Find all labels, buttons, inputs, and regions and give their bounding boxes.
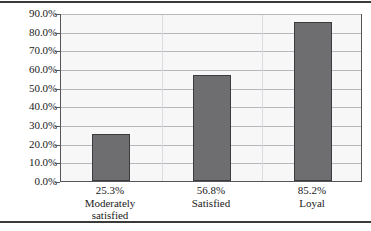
- top-divider-rule: [0, 1, 371, 3]
- y-axis-tick-label: 0.0%: [1, 176, 57, 187]
- y-axis-tick-label: 60.0%: [1, 64, 57, 75]
- bar[interactable]: [92, 134, 130, 181]
- y-axis-tick-mark: [55, 14, 60, 15]
- x-axis-value-label: 56.8%: [156, 184, 266, 197]
- y-axis-tick-mark: [55, 126, 60, 127]
- x-axis-category-label: 85.2%Loyal: [257, 184, 367, 209]
- x-axis-category-text: Satisfied: [156, 197, 266, 210]
- y-axis-tick-mark: [55, 33, 60, 34]
- bar[interactable]: [294, 22, 332, 181]
- bars-group: [61, 15, 361, 181]
- y-axis-tick-label: 20.0%: [1, 139, 57, 150]
- y-axis-tick-label: 10.0%: [1, 157, 57, 168]
- x-axis-value-label: 25.3%: [55, 184, 165, 197]
- plot-area: [60, 14, 362, 182]
- x-axis-category-text: satisfied: [55, 209, 165, 222]
- y-axis-tick-label: 80.0%: [1, 27, 57, 38]
- x-axis-category-text: Loyal: [257, 197, 367, 210]
- x-axis-category-text: Moderately: [55, 197, 165, 210]
- y-axis-tick-mark: [55, 107, 60, 108]
- y-axis-tick-mark: [55, 182, 60, 183]
- y-axis-tick-label: 50.0%: [1, 83, 57, 94]
- y-axis-tick-label: 90.0%: [1, 8, 57, 19]
- y-axis-tick-mark: [55, 70, 60, 71]
- y-axis-tick-label: 40.0%: [1, 101, 57, 112]
- x-axis-category-label: 56.8%Satisfied: [156, 184, 266, 209]
- y-axis-tick-label: 30.0%: [1, 120, 57, 131]
- bar-chart-figure: 0.0%10.0%20.0%30.0%40.0%50.0%60.0%70.0%8…: [0, 4, 371, 220]
- y-axis-tick-mark: [55, 89, 60, 90]
- y-axis-tick-mark: [55, 163, 60, 164]
- bar[interactable]: [193, 75, 231, 181]
- y-axis-tick-mark: [55, 51, 60, 52]
- x-axis-category-label: 25.3%Moderatelysatisfied: [55, 184, 165, 222]
- x-axis-labels: 25.3%Moderatelysatisfied56.8%Satisfied85…: [60, 184, 362, 224]
- y-axis-tick-mark: [55, 145, 60, 146]
- y-axis-tick-label: 70.0%: [1, 45, 57, 56]
- x-axis-value-label: 85.2%: [257, 184, 367, 197]
